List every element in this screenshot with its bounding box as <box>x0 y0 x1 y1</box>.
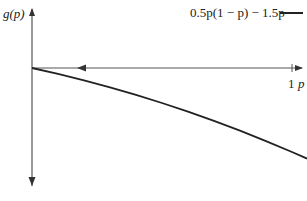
y-axis-label: g(p) <box>3 7 25 20</box>
x-tick-1-text: 1 <box>288 76 295 91</box>
series-line <box>32 68 307 159</box>
legend-label: 0.5p(1 − p) − 1.5p <box>190 6 285 19</box>
legend-text: 0.5p(1 − p) − 1.5p <box>190 5 285 20</box>
x-axis-label: p <box>298 77 305 90</box>
chart-canvas <box>0 0 307 201</box>
x-tick-label-1: 1 <box>288 77 295 90</box>
x-axis-label-text: p <box>298 76 305 91</box>
y-axis-label-text: g(p) <box>3 6 25 21</box>
y-axis-down-arrow-icon <box>29 177 36 186</box>
left-arrow-icon <box>77 65 86 72</box>
